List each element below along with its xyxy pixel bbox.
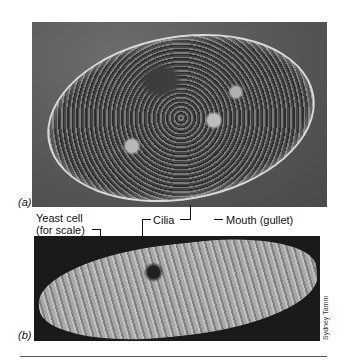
leader-mouth [214, 219, 223, 220]
paramecium-sem-image [34, 236, 320, 341]
label-mouth-gullet: Mouth (gullet) [226, 214, 293, 226]
photo-credit: Sydney Tamm [321, 286, 330, 340]
paramecium-cell-image [34, 22, 327, 207]
divider-rule [20, 356, 327, 357]
label-yeast-cell: Yeast cell [36, 212, 83, 224]
panel-label-a: (a) [18, 196, 31, 208]
label-yeast-cell-sub: (for scale) [36, 224, 85, 236]
label-cilia: Cilia [153, 214, 174, 226]
micrograph-a [32, 22, 327, 207]
panel-label-b: (b) [18, 329, 31, 341]
micrograph-b [34, 236, 320, 341]
leader-cilia-right [180, 205, 191, 220]
